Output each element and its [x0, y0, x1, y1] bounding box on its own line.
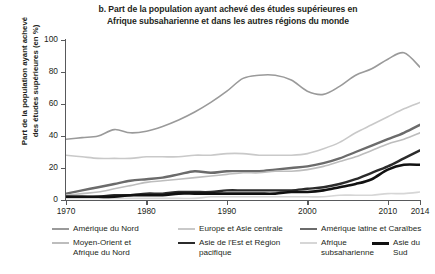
legend-label: Asie de l'Est et Région pacifique: [199, 238, 280, 258]
legend-item[interactable]: Asie de l'Est et Région pacifique: [178, 238, 280, 258]
legend-swatch-icon: [52, 242, 69, 244]
y-axis-tick-mark: [61, 72, 65, 73]
y-axis-tick-mark: [61, 104, 65, 105]
legend-swatch-icon: [300, 228, 317, 230]
y-axis-tick-mark: [61, 200, 65, 201]
x-axis-tick-mark: [66, 201, 67, 205]
legend-item[interactable]: Moyen-Orient et Afrique du Nord: [52, 238, 131, 258]
x-axis-tick-label: 2000: [287, 206, 327, 216]
y-axis-tick-mark: [61, 40, 65, 41]
legend-swatch-icon: [300, 242, 317, 244]
series-lines: [66, 40, 420, 200]
y-axis-tick-label: 60: [24, 98, 58, 108]
chart-legend: Amérique du NordEurope et Asie centraleA…: [52, 224, 432, 270]
x-axis-tick-label: 1970: [46, 206, 86, 216]
legend-item[interactable]: Asie du Sud: [372, 238, 432, 258]
x-axis-tick-label: 1990: [207, 206, 247, 216]
x-axis-tick-mark: [227, 201, 228, 205]
legend-swatch-icon: [178, 242, 195, 244]
y-axis-tick-label: 100: [24, 34, 58, 44]
legend-label: Asie du Sud: [393, 238, 432, 258]
legend-label: Amérique latine et Caraïbes: [321, 224, 421, 234]
plot-area: [66, 40, 420, 200]
legend-label: Europe et Asie centrale: [199, 224, 283, 234]
x-axis-tick-mark: [388, 201, 389, 205]
legend-label: Amérique du Nord: [73, 224, 139, 234]
legend-item[interactable]: Amérique latine et Caraïbes: [300, 224, 421, 234]
x-axis-line: [65, 200, 421, 201]
title-line-2: Afrique subsaharienne et dans les autres…: [78, 16, 378, 28]
legend-label: Afrique subsaharienne: [321, 238, 374, 258]
x-axis-tick-label: 2014: [400, 206, 435, 216]
legend-swatch-icon: [178, 228, 195, 230]
legend-swatch-icon: [372, 242, 389, 245]
chart-figure: b. Part de la population ayant achevé de…: [0, 0, 435, 274]
series-line: [66, 53, 420, 140]
y-axis-tick-mark: [61, 136, 65, 137]
legend-swatch-icon: [52, 228, 69, 230]
page-title: b. Part de la population ayant achevé de…: [78, 4, 378, 27]
x-axis-tick-label: 1980: [126, 206, 166, 216]
legend-item[interactable]: Afrique subsaharienne: [300, 238, 374, 258]
x-axis-tick-mark: [420, 201, 421, 205]
x-axis-tick-mark: [146, 201, 147, 205]
title-line-1: b. Part de la population ayant achevé de…: [78, 4, 378, 16]
legend-label: Moyen-Orient et Afrique du Nord: [73, 238, 131, 258]
y-axis-tick-label: 40: [24, 130, 58, 140]
y-axis-tick-mark: [61, 168, 65, 169]
legend-item[interactable]: Europe et Asie centrale: [178, 224, 283, 234]
series-line: [66, 150, 420, 197]
y-axis-tick-label: 0: [24, 194, 58, 204]
x-axis-tick-mark: [307, 201, 308, 205]
y-axis-tick-label: 20: [24, 162, 58, 172]
series-line: [66, 164, 420, 196]
series-line: [66, 133, 420, 195]
legend-item[interactable]: Amérique du Nord: [52, 224, 139, 234]
y-axis-tick-label: 80: [24, 66, 58, 76]
